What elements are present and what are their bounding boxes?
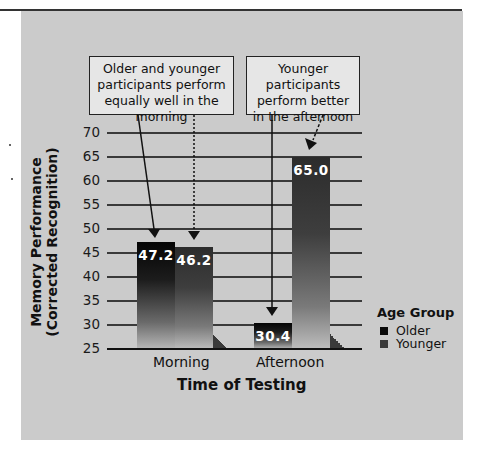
arrowhead-icon <box>148 229 160 238</box>
arrowhead-icon <box>188 231 200 240</box>
arrow-dashed-younger-afternoon <box>313 115 323 140</box>
arrowhead-icon <box>305 138 317 150</box>
annotation-arrows <box>0 0 483 454</box>
arrow-solid-older-morning <box>138 115 154 229</box>
arrowhead-icon <box>266 307 278 316</box>
